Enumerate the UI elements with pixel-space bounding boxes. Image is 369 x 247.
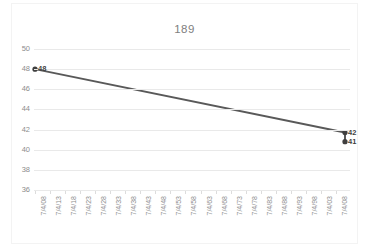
gridline xyxy=(34,170,350,171)
x-axis-tick-label: 7/4/38 xyxy=(130,196,138,215)
x-axis-tick-label: 7/4/53 xyxy=(175,196,183,215)
x-axis-tick-label: 7/4/73 xyxy=(236,196,244,215)
data-point-label: 48 xyxy=(38,65,46,73)
x-axis-tick-label: 7/4/98 xyxy=(311,196,319,215)
y-axis-tick-label: 40 xyxy=(10,146,30,154)
x-axis-tick-label: 7/4/28 xyxy=(100,196,108,215)
x-axis-tick-label: 7/4/68 xyxy=(221,196,229,215)
chart-container: 189 5048464442403836 7/4/087/4/137/4/187… xyxy=(0,0,369,247)
x-axis-tickmark xyxy=(95,191,96,194)
x-axis-tickmark xyxy=(50,191,51,194)
y-axis-tick-label: 48 xyxy=(10,65,30,73)
gridline xyxy=(34,49,350,50)
x-axis-tickmark xyxy=(246,191,247,194)
x-axis-tick-label: 7/4/58 xyxy=(190,196,198,215)
x-axis-tick-label: 7/4/13 xyxy=(55,196,63,215)
x-axis-tick-label: 7/4/08 xyxy=(341,196,349,215)
y-axis: 5048464442403836 xyxy=(8,49,30,190)
x-axis-tick-label: 7/4/18 xyxy=(70,196,78,215)
y-axis-tick-label: 46 xyxy=(10,85,30,93)
x-axis-tickmark xyxy=(276,191,277,194)
x-axis-tickmark xyxy=(336,191,337,194)
x-axis-tick-label: 7/4/88 xyxy=(281,196,289,215)
y-axis-tick-label: 44 xyxy=(10,105,30,113)
x-axis-tickmark xyxy=(216,191,217,194)
x-axis-tick-label: 7/4/43 xyxy=(145,196,153,215)
data-point-label: 41 xyxy=(348,138,356,146)
x-axis-tickmark xyxy=(170,191,171,194)
x-axis-tickmark xyxy=(110,191,111,194)
x-axis-tickmark xyxy=(185,191,186,194)
x-axis-tickmark xyxy=(291,191,292,194)
x-axis-tick-label: 7/4/08 xyxy=(40,196,48,215)
series-segment xyxy=(35,69,345,132)
x-axis-tick-label: 7/4/93 xyxy=(296,196,304,215)
y-axis-tick-label: 50 xyxy=(10,45,30,53)
y-axis-tick-label: 38 xyxy=(10,166,30,174)
x-axis-tickmark xyxy=(155,191,156,194)
gridline xyxy=(34,130,350,131)
x-axis-tick-label: 7/4/63 xyxy=(206,196,214,215)
x-axis-tickmark xyxy=(125,191,126,194)
x-axis-tick-label: 7/4/03 xyxy=(326,196,334,215)
series-line-189 xyxy=(34,49,350,190)
x-axis-tick-label: 7/4/23 xyxy=(85,196,93,215)
x-axis-tickmark xyxy=(80,191,81,194)
x-axis-tickmark xyxy=(65,191,66,194)
data-point-marker xyxy=(342,130,347,135)
x-axis-tick-label: 7/4/78 xyxy=(251,196,259,215)
x-axis-tick-label: 7/4/33 xyxy=(115,196,123,215)
x-axis-tickmark xyxy=(306,191,307,194)
y-axis-tick-label: 36 xyxy=(10,186,30,194)
data-point-marker xyxy=(342,139,347,144)
x-axis-tickmark xyxy=(261,191,262,194)
gridline xyxy=(34,109,350,110)
data-point-label: 42 xyxy=(348,129,356,137)
gridline xyxy=(34,69,350,70)
x-axis-tickmark xyxy=(140,191,141,194)
gridline xyxy=(34,150,350,151)
x-axis-tickmark xyxy=(35,191,36,194)
x-axis-tick-label: 7/4/48 xyxy=(160,196,168,215)
x-axis-tickmark xyxy=(201,191,202,194)
x-axis-tickmark xyxy=(321,191,322,194)
x-axis: 7/4/087/4/137/4/187/4/237/4/287/4/337/4/… xyxy=(34,191,350,243)
x-axis-tick-label: 7/4/83 xyxy=(266,196,274,215)
plot-area xyxy=(34,49,350,190)
x-axis-tickmark xyxy=(231,191,232,194)
y-axis-tick-label: 42 xyxy=(10,126,30,134)
gridline xyxy=(34,89,350,90)
chart-title: 189 xyxy=(0,22,369,36)
